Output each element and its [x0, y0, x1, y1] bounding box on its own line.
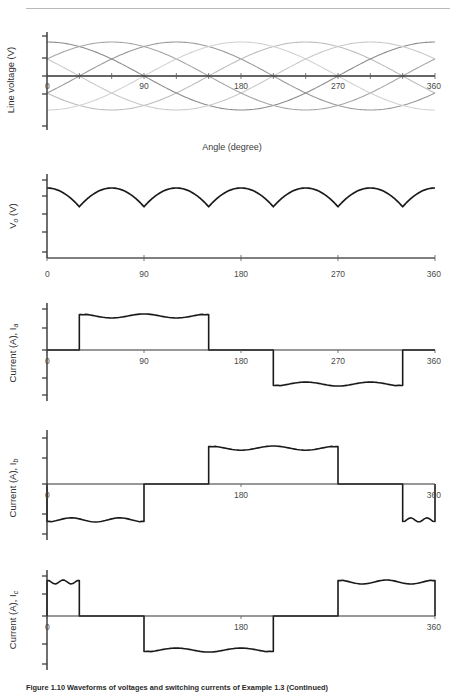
svg-text:Current (A), Ia: Current (A), Ia — [7, 324, 19, 383]
svg-text:360: 360 — [427, 269, 441, 279]
header-rule — [26, 8, 450, 9]
svg-text:Vo (V): Vo (V) — [7, 203, 19, 229]
chart-line-voltage: 090180270360Line voltage (V)Angle (degre… — [0, 14, 466, 154]
svg-text:180: 180 — [234, 81, 248, 91]
figure-caption: Figure 1.10 Waveforms of voltages and sw… — [26, 682, 446, 693]
svg-text:180: 180 — [234, 269, 248, 279]
svg-text:0: 0 — [45, 490, 50, 500]
svg-text:90: 90 — [139, 356, 149, 366]
chart-current-c: 0180360Current (A), Ic — [0, 558, 466, 678]
svg-text:360: 360 — [427, 490, 441, 500]
svg-text:180: 180 — [234, 356, 248, 366]
svg-text:270: 270 — [331, 356, 345, 366]
current-c-plot: 0180360Current (A), Ic — [0, 558, 466, 678]
svg-text:90: 90 — [139, 81, 149, 91]
svg-text:Angle (degree): Angle (degree) — [202, 142, 262, 152]
current-a-plot: 090180270360Current (A), Ia — [0, 295, 466, 410]
output-voltage-plot: 090180270360Vo (V) — [0, 160, 466, 285]
svg-text:Line voltage (V): Line voltage (V) — [5, 47, 16, 114]
figure-page: 090180270360Line voltage (V)Angle (degre… — [0, 0, 466, 696]
svg-text:Current (A), Ib: Current (A), Ib — [7, 459, 19, 518]
chart-current-b: 0180360Current (A), Ib — [0, 418, 466, 553]
svg-text:0: 0 — [45, 81, 50, 91]
svg-text:360: 360 — [427, 81, 441, 91]
chart-current-a: 090180270360Current (A), Ia — [0, 295, 466, 410]
svg-text:0: 0 — [45, 356, 50, 366]
svg-text:270: 270 — [331, 269, 345, 279]
svg-text:0: 0 — [45, 269, 50, 279]
chart-output-voltage: 090180270360Vo (V) — [0, 160, 466, 285]
line-voltage-plot: 090180270360Line voltage (V)Angle (degre… — [0, 14, 466, 154]
svg-text:Current (A), Ic: Current (A), Ic — [7, 590, 19, 649]
svg-text:360: 360 — [427, 356, 441, 366]
svg-text:0: 0 — [45, 622, 50, 632]
current-b-plot: 0180360Current (A), Ib — [0, 418, 466, 553]
svg-text:180: 180 — [234, 622, 248, 632]
svg-text:360: 360 — [427, 622, 441, 632]
svg-text:90: 90 — [139, 269, 149, 279]
svg-text:270: 270 — [331, 81, 345, 91]
svg-text:180: 180 — [234, 490, 248, 500]
